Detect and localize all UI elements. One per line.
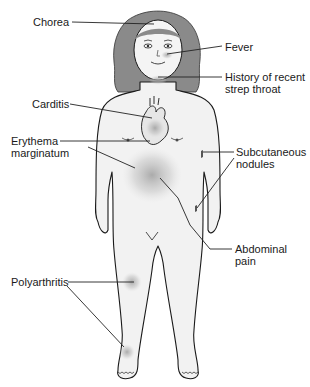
- nodule-wrist: [195, 205, 197, 212]
- label-carditis: Carditis: [32, 98, 69, 110]
- label-erythema-marginatum: Erythema marginatum: [11, 135, 69, 159]
- label-subcutaneous-nodules: Subcutaneous nodules: [236, 146, 306, 170]
- label-abdominal-pain: Abdominal pain: [235, 243, 287, 267]
- rash-area: [122, 147, 182, 203]
- leader-polyarthritis-2: [67, 286, 124, 347]
- label-polyarthritis: Polyarthritis: [11, 276, 68, 288]
- label-fever: Fever: [225, 41, 253, 53]
- label-chorea: Chorea: [33, 16, 69, 28]
- rheumatic-fever-figure: [0, 0, 310, 387]
- ankle-swelling: [119, 344, 135, 360]
- label-strep-throat: History of recent strep throat: [225, 71, 305, 95]
- nodule-elbow: [201, 150, 203, 158]
